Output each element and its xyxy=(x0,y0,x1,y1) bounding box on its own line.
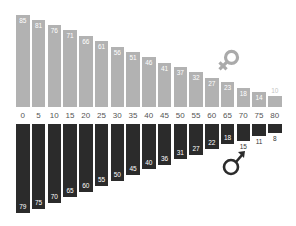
age-tick-label: 40 xyxy=(141,111,157,121)
female-value-label: 46 xyxy=(141,59,156,67)
male-value-label: 36 xyxy=(157,155,172,163)
female-bar xyxy=(48,25,62,107)
male-bar xyxy=(63,124,77,197)
male-bar xyxy=(32,124,46,209)
male-value-label: 65 xyxy=(63,187,78,195)
age-tick-label: 10 xyxy=(46,111,62,121)
age-tick-label: 25 xyxy=(94,111,110,121)
male-value-label: 50 xyxy=(110,171,125,179)
male-value-label: 60 xyxy=(78,182,93,190)
female-value-label: 41 xyxy=(157,65,172,73)
age-tick-label: 20 xyxy=(78,111,94,121)
female-bar xyxy=(32,20,46,107)
female-value-label: 61 xyxy=(94,43,109,51)
female-bar xyxy=(16,15,30,107)
male-value-label: 18 xyxy=(220,134,235,142)
female-value-label: 51 xyxy=(126,54,141,62)
female-bar xyxy=(79,36,93,107)
male-value-label: 79 xyxy=(15,203,30,211)
female-bar xyxy=(63,30,77,107)
male-value-label: 75 xyxy=(31,199,46,207)
female-value-label: 10 xyxy=(267,87,282,95)
male-bar xyxy=(252,124,266,136)
age-tick-label: 75 xyxy=(251,111,267,121)
female-bar xyxy=(268,96,282,107)
female-value-label: 85 xyxy=(15,17,30,25)
male-bar xyxy=(237,124,251,141)
male-value-label: 31 xyxy=(173,149,188,157)
male-value-label: 22 xyxy=(204,139,219,147)
age-tick-label: 5 xyxy=(31,111,47,121)
female-value-label: 32 xyxy=(189,74,204,82)
age-tick-label: 35 xyxy=(125,111,141,121)
age-tick-label: 45 xyxy=(157,111,173,121)
female-value-label: 66 xyxy=(78,38,93,46)
female-value-label: 81 xyxy=(31,22,46,30)
male-value-label: 70 xyxy=(47,193,62,201)
age-tick-label: 80 xyxy=(267,111,283,121)
male-value-label: 40 xyxy=(141,159,156,167)
age-tick-label: 15 xyxy=(62,111,78,121)
female-value-label: 23 xyxy=(220,84,235,92)
mirrored-bar-chart: 8507981575761070711565662060612555563050… xyxy=(0,0,296,226)
female-value-label: 18 xyxy=(236,90,251,98)
age-tick-label: 70 xyxy=(235,111,251,121)
age-tick-label: 60 xyxy=(204,111,220,121)
male-bar xyxy=(48,124,62,203)
female-value-label: 27 xyxy=(204,80,219,88)
male-bar xyxy=(16,124,30,213)
age-tick-label: 65 xyxy=(220,111,236,121)
male-value-label: 55 xyxy=(94,176,109,184)
male-symbol-icon xyxy=(221,148,247,178)
female-value-label: 71 xyxy=(63,32,78,40)
female-value-label: 76 xyxy=(47,27,62,35)
male-value-label: 8 xyxy=(267,135,282,143)
male-value-label: 45 xyxy=(126,165,141,173)
age-tick-label: 50 xyxy=(172,111,188,121)
male-value-label: 27 xyxy=(189,145,204,153)
female-symbol-icon xyxy=(214,46,242,76)
male-value-label: 11 xyxy=(252,138,267,146)
male-bar xyxy=(268,124,282,133)
age-tick-label: 55 xyxy=(188,111,204,121)
age-tick-label: 0 xyxy=(15,111,31,121)
age-tick-label: 30 xyxy=(109,111,125,121)
female-value-label: 14 xyxy=(252,94,267,102)
female-value-label: 56 xyxy=(110,49,125,57)
female-value-label: 37 xyxy=(173,69,188,77)
